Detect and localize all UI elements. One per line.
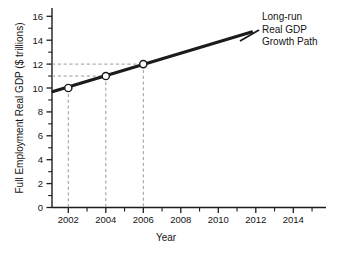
long-run-growth-path-line: [53, 32, 252, 92]
y-tick-label-14: 14: [32, 35, 43, 46]
vertical-guide-lines: [68, 64, 143, 207]
x-tick-label-2012: 2012: [245, 214, 266, 225]
y-tick-label-2: 2: [38, 178, 43, 189]
x-tick-label-2002: 2002: [58, 214, 79, 225]
x-tick-label-2014: 2014: [283, 214, 304, 225]
x-tick-label-2010: 2010: [208, 214, 229, 225]
y-axis-major-ticks: [47, 16, 53, 207]
y-tick-label-6: 6: [38, 130, 43, 141]
x-tick-label-2004: 2004: [95, 214, 116, 225]
y-tick-label-16: 16: [32, 11, 43, 22]
x-axis-title: Year: [156, 232, 177, 243]
y-tick-label-8: 8: [38, 106, 43, 117]
y-axis-title: Full Employment Real GDP ($ trillions): [14, 23, 25, 194]
annotation-line-3: Growth Path: [262, 36, 318, 47]
y-tick-label-12: 12: [32, 59, 43, 70]
y-tick-label-0: 0: [38, 202, 43, 213]
y-tick-label-10: 10: [32, 83, 43, 94]
x-tick-label-2008: 2008: [170, 214, 191, 225]
gdp-growth-path-chart: 0 2 4 6 8 10 12 14 16 2002: [0, 0, 337, 255]
x-tick-label-2006: 2006: [133, 214, 154, 225]
chart-container: 0 2 4 6 8 10 12 14 16 2002: [0, 0, 337, 255]
x-axis-major-ticks: [68, 208, 293, 214]
data-point-marker-2004: [102, 72, 109, 79]
y-tick-label-4: 4: [38, 154, 43, 165]
annotation-line-1: Long-run: [262, 11, 302, 22]
data-point-marker-2006: [140, 61, 147, 68]
annotation-line-2: Real GDP: [262, 24, 307, 35]
data-point-marker-2002: [65, 84, 72, 91]
